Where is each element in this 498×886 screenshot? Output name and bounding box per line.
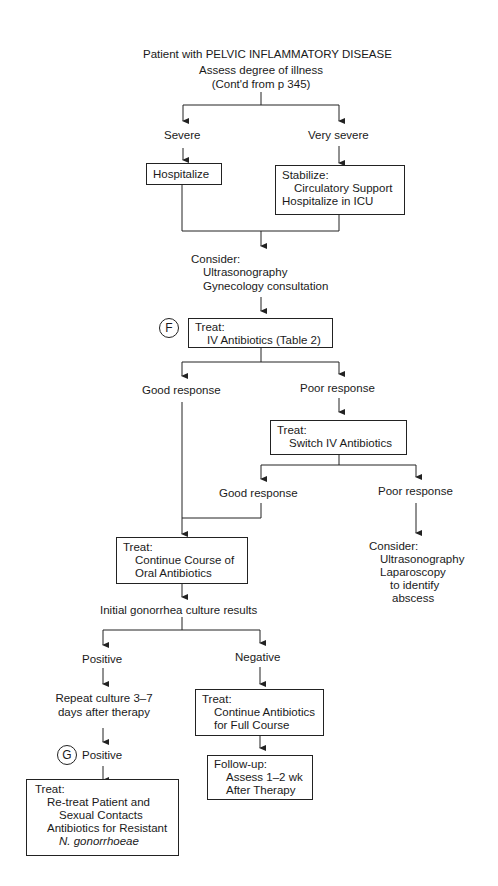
positive-label-2: Positive bbox=[82, 749, 122, 762]
marker-f-icon: F bbox=[159, 318, 179, 338]
followup-box: Follow-up: Assess 1–2 wk After Therapy bbox=[207, 755, 313, 800]
positive-label: Positive bbox=[82, 653, 122, 666]
consider-heading: Consider: bbox=[191, 253, 240, 266]
treat-line: Oral Antibiotics bbox=[123, 567, 241, 580]
hospitalize-label: Hospitalize bbox=[153, 168, 215, 181]
followup-heading: Follow-up: bbox=[214, 758, 306, 771]
consider-line: Laparoscopy bbox=[380, 566, 446, 579]
consider-line: Gynecology consultation bbox=[203, 280, 328, 293]
treat-line: N. gonorrhoeae bbox=[35, 835, 170, 848]
consider-line: to identify bbox=[390, 579, 439, 592]
contd-label: (Cont'd from p 345) bbox=[207, 78, 315, 91]
repeat-culture-line: days after therapy bbox=[51, 706, 157, 719]
treat-heading: Treat: bbox=[195, 321, 326, 334]
treat-line: Switch IV Antibiotics bbox=[277, 437, 400, 450]
repeat-culture-line: Repeat culture 3–7 bbox=[51, 692, 157, 705]
treat-heading: Treat: bbox=[277, 424, 400, 437]
severe-label: Severe bbox=[164, 129, 200, 142]
poor-response-label: Poor response bbox=[300, 382, 375, 395]
chart-title: Patient with PELVIC INFLAMMATORY DISEASE bbox=[143, 48, 383, 61]
treat-oral-box: Treat: Continue Course of Oral Antibioti… bbox=[116, 537, 248, 584]
very-severe-label: Very severe bbox=[308, 129, 369, 142]
treat-heading: Treat: bbox=[35, 783, 170, 796]
good-response-label: Good response bbox=[142, 384, 221, 397]
treat-line: Sexual Contacts bbox=[35, 809, 170, 822]
culture-label: Initial gonorrhea culture results bbox=[100, 604, 257, 617]
consider-line: Ultrasonography bbox=[203, 266, 287, 279]
treat-resistant-box: Treat: Re-treat Patient and Sexual Conta… bbox=[26, 779, 179, 856]
treat-line: IV Antibiotics (Table 2) bbox=[195, 334, 326, 347]
stabilize-heading: Stabilize: bbox=[282, 169, 398, 182]
poor-response-label-2: Poor response bbox=[378, 485, 453, 498]
treat-line: Continue Course of bbox=[123, 554, 241, 567]
treat-switch-box: Treat: Switch IV Antibiotics bbox=[270, 420, 407, 455]
consider-heading: Consider: bbox=[369, 540, 418, 553]
marker-g-icon: G bbox=[57, 745, 77, 765]
followup-line: After Therapy bbox=[214, 784, 306, 797]
consider-line: abscess bbox=[392, 592, 434, 605]
followup-line: Assess 1–2 wk bbox=[214, 771, 306, 784]
treat-line: Re-treat Patient and bbox=[35, 796, 170, 809]
stabilize-box: Stabilize: Circulatory Support Hospitali… bbox=[275, 165, 405, 215]
treat-line: Antibiotics for Resistant bbox=[35, 822, 170, 835]
treat-full-box: Treat: Continue Antibiotics for Full Cou… bbox=[195, 689, 324, 736]
treat-iv-box: Treat: IV Antibiotics (Table 2) bbox=[188, 318, 333, 348]
treat-heading: Treat: bbox=[202, 693, 317, 706]
negative-label: Negative bbox=[235, 651, 280, 664]
stabilize-line: Circulatory Support bbox=[282, 182, 398, 195]
treat-heading: Treat: bbox=[123, 541, 241, 554]
treat-line: Continue Antibiotics bbox=[202, 706, 317, 719]
good-response-label-2: Good response bbox=[219, 487, 298, 500]
consider-line: Ultrasonography bbox=[380, 553, 464, 566]
hospitalize-box: Hospitalize bbox=[146, 163, 222, 185]
stabilize-line: Hospitalize in ICU bbox=[282, 195, 398, 208]
treat-line: for Full Course bbox=[202, 719, 317, 732]
assess-label: Assess degree of illness bbox=[187, 64, 335, 77]
